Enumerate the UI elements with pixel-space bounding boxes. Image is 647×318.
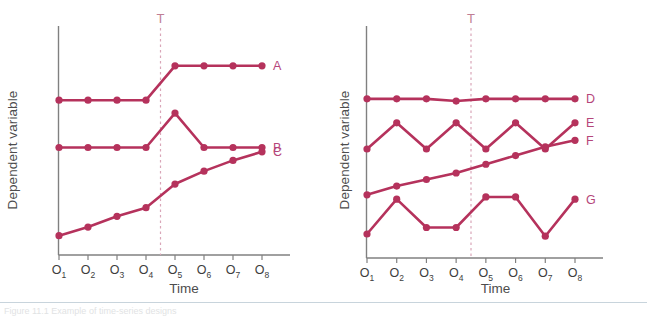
data-point [512, 152, 519, 159]
x-tick-label: O2 [81, 263, 96, 280]
data-point [542, 143, 549, 150]
x-tick-label: O1 [52, 263, 67, 280]
data-point [229, 62, 236, 69]
data-point [200, 168, 207, 175]
data-point [453, 119, 460, 126]
data-point [512, 193, 519, 200]
data-point [453, 169, 460, 176]
series-label: A [273, 59, 282, 73]
data-point [84, 97, 91, 104]
x-tick-label: O6 [197, 263, 212, 280]
data-point [55, 232, 62, 239]
x-tick-label: O7 [226, 263, 241, 280]
data-point [423, 145, 430, 152]
data-point [55, 144, 62, 151]
data-point [171, 110, 178, 117]
data-point [393, 95, 400, 102]
plot-area-left: O1O2O3O4O5O6O7O8TABC [0, 0, 324, 300]
data-point [571, 196, 578, 203]
data-point [55, 97, 62, 104]
data-point [453, 224, 460, 231]
intervention-label-t: T [157, 11, 165, 26]
data-point [482, 161, 489, 168]
data-point [142, 144, 149, 151]
data-point [363, 145, 370, 152]
x-tick-label: O8 [255, 263, 270, 280]
plot-area-right: O1O2O3O4O5O6O7O8TDEFG [324, 0, 647, 300]
x-tick-label: O5 [168, 263, 183, 280]
data-point [512, 95, 519, 102]
intervention-label-t: T [467, 11, 475, 26]
series-label: C [273, 145, 282, 159]
x-tick-label: O4 [139, 263, 154, 280]
data-point [393, 119, 400, 126]
data-point [393, 182, 400, 189]
data-point [229, 144, 236, 151]
series-label: D [586, 92, 595, 106]
data-point [363, 191, 370, 198]
data-point [571, 119, 578, 126]
x-axis-label: Time [324, 281, 647, 296]
x-tick-label: O3 [110, 263, 125, 280]
time-series-designs-figure: Dependent variable O1O2O3O4O5O6O7O8TABC … [0, 0, 647, 318]
data-point [453, 97, 460, 104]
data-point [393, 196, 400, 203]
series-label: E [586, 116, 594, 130]
data-point [363, 230, 370, 237]
data-point [200, 62, 207, 69]
data-point [363, 95, 370, 102]
data-point [258, 148, 265, 155]
data-point [113, 213, 120, 220]
data-point [482, 145, 489, 152]
series-label: F [586, 134, 594, 148]
data-point [171, 62, 178, 69]
data-point [258, 62, 265, 69]
data-point [512, 119, 519, 126]
data-point [423, 224, 430, 231]
data-point [423, 95, 430, 102]
data-point [542, 95, 549, 102]
data-point [113, 97, 120, 104]
data-point [542, 233, 549, 240]
data-point [229, 157, 236, 164]
data-point [113, 144, 120, 151]
data-point [84, 223, 91, 230]
figure-caption: Figure 11.1 Example of time-series desig… [4, 306, 644, 318]
data-point [200, 144, 207, 151]
data-point [142, 204, 149, 211]
x-axis-label: Time [0, 281, 346, 296]
caption-divider [0, 302, 647, 303]
series-label: G [586, 193, 596, 207]
data-point [423, 176, 430, 183]
data-point [571, 95, 578, 102]
chart-panel-left: Dependent variable O1O2O3O4O5O6O7O8TABC … [0, 0, 324, 300]
data-point [571, 137, 578, 144]
data-point [482, 193, 489, 200]
data-point [171, 180, 178, 187]
data-point [142, 97, 149, 104]
data-point [482, 95, 489, 102]
data-point [84, 144, 91, 151]
chart-panel-right: Dependent variable O1O2O3O4O5O6O7O8TDEFG… [324, 0, 647, 300]
